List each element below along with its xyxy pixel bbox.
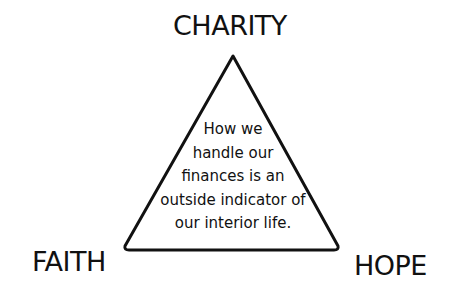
- label-hope: HOPE: [354, 250, 427, 281]
- statement-line: How we: [150, 118, 316, 142]
- statement-line: handle our: [150, 142, 316, 166]
- statement-line: our interior life.: [150, 212, 316, 236]
- statement-line: finances is an: [150, 165, 316, 189]
- statement-line: outside indicator of: [150, 189, 316, 213]
- center-statement: How we handle our finances is an outside…: [150, 118, 316, 236]
- label-charity: CHARITY: [173, 10, 287, 41]
- label-faith: FAITH: [32, 246, 106, 277]
